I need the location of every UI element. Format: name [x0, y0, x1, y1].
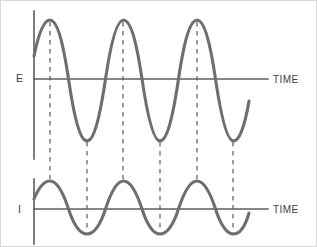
current-waveform: [34, 181, 249, 234]
voltage-waveform: [34, 20, 249, 141]
current-axis-label: I: [18, 203, 21, 215]
voltage-time-label: TIME: [273, 74, 299, 85]
waveform-diagram: E I TIME TIME: [0, 0, 317, 247]
waveform-svg-canvas: E I TIME TIME: [1, 1, 317, 247]
voltage-plot-group: [34, 11, 268, 159]
voltage-axis-label: E: [16, 72, 23, 84]
current-time-label: TIME: [273, 204, 299, 215]
